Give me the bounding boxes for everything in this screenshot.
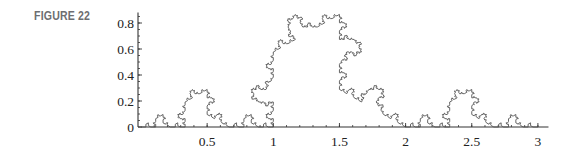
y-tick-label: 0.6 bbox=[117, 42, 134, 57]
x-tick-label: 3 bbox=[535, 134, 542, 149]
x-tick-label: 1.5 bbox=[331, 134, 348, 149]
x-tick-label: 1 bbox=[270, 134, 277, 149]
x-tick-label: 2.5 bbox=[463, 134, 480, 149]
fractal-curve bbox=[141, 14, 538, 127]
y-tick-label: 0 bbox=[127, 120, 134, 135]
x-tick-label: 0.5 bbox=[199, 134, 216, 149]
y-tick-label: 0.4 bbox=[117, 68, 134, 83]
y-tick-label: 0.2 bbox=[117, 94, 134, 109]
axes bbox=[138, 13, 548, 127]
tick-labels: 0.511.522.5300.20.40.60.8 bbox=[117, 16, 541, 149]
y-tick-label: 0.8 bbox=[117, 16, 134, 31]
fractal-curve-chart: 0.511.522.5300.20.40.60.8 bbox=[0, 0, 577, 154]
x-tick-label: 2 bbox=[402, 134, 409, 149]
